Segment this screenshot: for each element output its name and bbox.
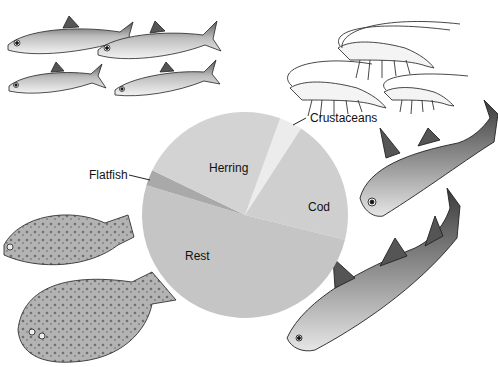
label-rest: Rest bbox=[185, 250, 210, 262]
label-flatfish: Flatfish bbox=[89, 169, 128, 181]
crustaceans-leader-line bbox=[293, 118, 306, 125]
label-herring: Herring bbox=[209, 162, 248, 174]
leader-lines bbox=[0, 0, 498, 367]
label-cod: Cod bbox=[308, 201, 330, 213]
flatfish-leader-line bbox=[129, 175, 150, 180]
fish-catch-pie-figure: Crustaceans Herring Flatfish Cod Rest bbox=[0, 0, 498, 367]
label-crustaceans: Crustaceans bbox=[310, 112, 377, 124]
